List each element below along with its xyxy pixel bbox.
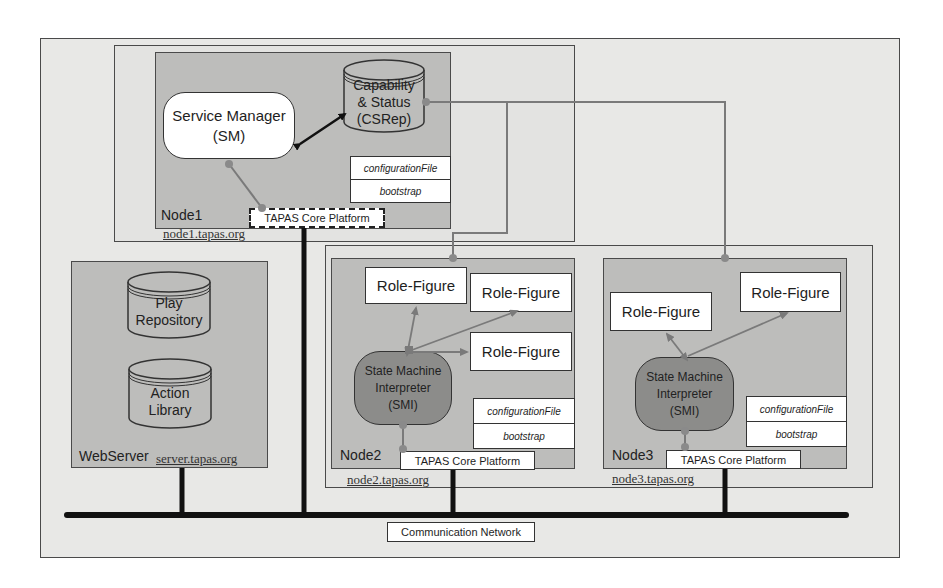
node2-bootstrap: bootstrap — [473, 423, 575, 449]
node2-tapas-core-platform: TAPAS Core Platform — [400, 451, 535, 470]
service-manager-title: Service Manager — [172, 106, 285, 126]
play-repository-label-2: Repository — [127, 311, 211, 330]
node1-label: Node1 — [161, 207, 202, 223]
node2-state-machine-interpreter: State Machine Interpreter (SMI) — [354, 351, 452, 425]
node3-smi-label-3: (SMI) — [646, 403, 723, 420]
node2-config-file: configurationFile — [473, 398, 575, 424]
node3-role-figure-1: Role-Figure — [610, 292, 712, 331]
action-library-label-2: Library — [128, 401, 212, 420]
webserver-hostname: server.tapas.org — [156, 451, 237, 467]
node3-smi-label-2: Interpreter — [646, 386, 723, 403]
communication-network-label: Communication Network — [387, 522, 535, 542]
action-library-database: Action Library — [128, 357, 212, 430]
service-manager: Service Manager (SM) — [163, 92, 295, 159]
play-repository-database: Play Repository — [127, 270, 211, 340]
node1-hostname: node1.tapas.org — [163, 226, 245, 242]
node3-state-machine-interpreter: State Machine Interpreter (SMI) — [635, 357, 734, 431]
node3-tapas-core-platform: TAPAS Core Platform — [666, 450, 801, 469]
node2-smi-label-1: State Machine — [365, 363, 442, 380]
node1-tapas-core-platform: TAPAS Core Platform — [249, 208, 385, 228]
node3-role-figure-2: Role-Figure — [740, 272, 841, 312]
service-manager-abbrev: (SM) — [172, 126, 285, 146]
tapas-architecture-diagram: Service Manager (SM) Capability & Status… — [0, 0, 943, 588]
node2-smi-label-3: (SMI) — [365, 397, 442, 414]
node3-bootstrap: bootstrap — [746, 421, 847, 447]
node2-smi-label-2: Interpreter — [365, 380, 442, 397]
node2-hostname: node2.tapas.org — [347, 472, 429, 488]
node3-label: Node3 — [612, 447, 653, 463]
node1-config-file: configurationFile — [350, 156, 451, 180]
node2-role-figure-1: Role-Figure — [365, 267, 467, 304]
csrep-label-3: (CSRep) — [343, 110, 425, 129]
node1-bootstrap: bootstrap — [350, 179, 451, 203]
node2-role-figure-3: Role-Figure — [470, 332, 572, 371]
node2-role-figure-2: Role-Figure — [470, 273, 572, 312]
csrep-database: Capability & Status (CSRep) — [343, 58, 425, 134]
node3-smi-label-1: State Machine — [646, 369, 723, 386]
node3-config-file: configurationFile — [746, 396, 847, 422]
node2-label: Node2 — [340, 447, 381, 463]
node3-hostname: node3.tapas.org — [612, 471, 694, 487]
webserver-label: WebServer — [79, 448, 149, 464]
